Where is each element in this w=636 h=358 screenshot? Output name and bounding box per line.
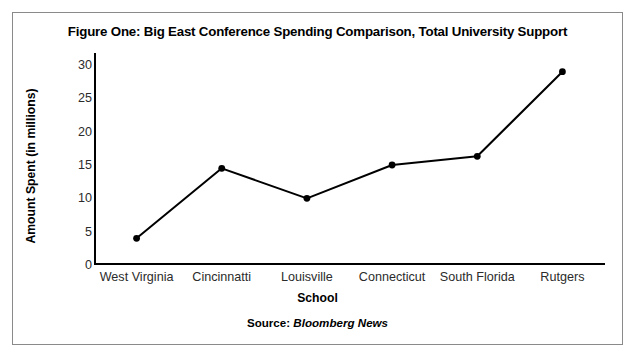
y-tick-label: 15 xyxy=(58,158,92,172)
figure-frame: Figure One: Big East Conference Spending… xyxy=(12,12,623,345)
line-series-svg xyxy=(94,53,605,265)
data-point-marker xyxy=(559,68,566,75)
source-note: Source: Bloomberg News xyxy=(13,316,622,329)
x-tick-label: Cincinnatti xyxy=(192,270,251,284)
data-point-marker xyxy=(389,162,396,169)
source-publication: Bloomberg News xyxy=(293,316,388,329)
y-tick-label: 5 xyxy=(58,225,92,239)
x-tick-label: West Virginia xyxy=(100,270,174,284)
x-tick-label: Connecticut xyxy=(359,270,426,284)
source-label: Source: xyxy=(247,316,290,329)
y-tick-label: 0 xyxy=(58,258,92,272)
y-axis-title: Amount Spent (in millions) xyxy=(24,66,38,266)
x-axis-title: School xyxy=(13,291,622,305)
x-tick-label: South Florida xyxy=(440,270,515,284)
series-line xyxy=(137,72,563,239)
y-tick-label: 25 xyxy=(58,91,92,105)
page-title: Figure One: Big East Conference Spending… xyxy=(13,24,622,39)
data-point-marker xyxy=(218,165,225,172)
data-point-marker xyxy=(474,153,481,160)
y-axis-tick-labels: 051015202530 xyxy=(58,53,92,265)
x-axis-tick-labels: West VirginiaCincinnattiLouisvilleConnec… xyxy=(94,270,605,290)
x-tick-label: Rutgers xyxy=(540,270,584,284)
x-tick-label: Louisville xyxy=(281,270,333,284)
y-tick-label: 10 xyxy=(58,191,92,205)
y-tick-label: 30 xyxy=(58,58,92,72)
plot-area xyxy=(94,53,605,265)
y-tick-label: 20 xyxy=(58,125,92,139)
data-point-marker xyxy=(133,235,140,242)
data-point-marker xyxy=(304,195,311,202)
